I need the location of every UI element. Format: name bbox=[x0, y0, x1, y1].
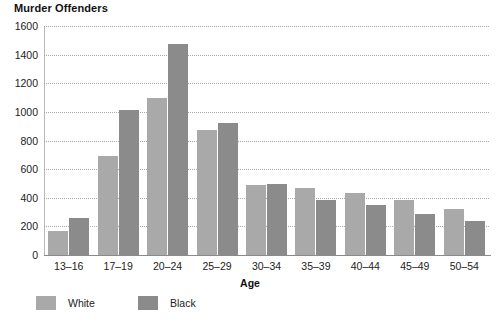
bar-white-30-34 bbox=[246, 185, 266, 255]
bar-white-13-16 bbox=[48, 231, 68, 255]
bar-white-50-54 bbox=[444, 209, 464, 255]
y-axis-tick-label: 1200 bbox=[0, 78, 38, 88]
x-axis-tick-label: 13–16 bbox=[44, 260, 93, 272]
bar-black-35-39 bbox=[316, 200, 336, 255]
y-axis-tick-label: 1600 bbox=[0, 21, 38, 31]
legend-item-black[interactable]: Black bbox=[138, 296, 196, 310]
x-axis-tick-label: 30–34 bbox=[242, 260, 291, 272]
bar-black-25-29 bbox=[218, 123, 238, 255]
x-axis-title: Age bbox=[0, 277, 500, 289]
y-axis-tick-label: 400 bbox=[0, 193, 38, 203]
x-axis-tick-label: 20–24 bbox=[143, 260, 192, 272]
bar-group bbox=[192, 26, 241, 255]
y-axis-tick-label: 1400 bbox=[0, 50, 38, 60]
x-axis-tick-label: 25–29 bbox=[192, 260, 241, 272]
legend-swatch-white bbox=[36, 296, 56, 310]
bar-group bbox=[242, 26, 291, 255]
y-axis-tick-label: 0 bbox=[0, 250, 38, 260]
bar-black-40-44 bbox=[366, 205, 386, 255]
bar-black-17-19 bbox=[119, 110, 139, 255]
x-axis-tick-label: 45–49 bbox=[390, 260, 439, 272]
bar-black-20-24 bbox=[168, 44, 188, 255]
bar-white-40-44 bbox=[345, 193, 365, 255]
bar-group bbox=[440, 26, 489, 255]
bar-group bbox=[390, 26, 439, 255]
murder-offenders-bar-chart: Murder Offenders 02004006008001000120014… bbox=[0, 0, 500, 323]
bar-group bbox=[341, 26, 390, 255]
bar-white-25-29 bbox=[197, 130, 217, 255]
bar-black-13-16 bbox=[69, 218, 89, 255]
x-axis-tick-label: 40–44 bbox=[341, 260, 390, 272]
legend-item-white[interactable]: White bbox=[36, 296, 95, 310]
bar-group bbox=[291, 26, 340, 255]
bar-black-30-34 bbox=[267, 184, 287, 255]
bar-group bbox=[143, 26, 192, 255]
y-axis-tick-label: 800 bbox=[0, 136, 38, 146]
bar-black-45-49 bbox=[415, 214, 435, 255]
bar-white-20-24 bbox=[147, 98, 167, 255]
x-axis-line bbox=[44, 255, 491, 256]
bar-white-17-19 bbox=[98, 156, 118, 255]
legend-swatch-black bbox=[138, 296, 158, 310]
chart-title: Murder Offenders bbox=[14, 2, 108, 14]
bar-white-35-39 bbox=[295, 188, 315, 255]
y-axis-tick-label: 200 bbox=[0, 221, 38, 231]
x-axis-tick-label: 17–19 bbox=[93, 260, 142, 272]
legend-label-black: Black bbox=[170, 297, 196, 309]
x-axis-tick-label: 50–54 bbox=[440, 260, 489, 272]
bar-black-50-54 bbox=[465, 221, 485, 255]
y-axis-tick-label: 600 bbox=[0, 164, 38, 174]
bar-group bbox=[44, 26, 93, 255]
bar-white-45-49 bbox=[394, 200, 414, 255]
legend-label-white: White bbox=[68, 297, 95, 309]
plot-area bbox=[44, 26, 489, 255]
y-axis-tick-label: 1000 bbox=[0, 107, 38, 117]
bar-group bbox=[93, 26, 142, 255]
x-axis-tick-label: 35–39 bbox=[291, 260, 340, 272]
